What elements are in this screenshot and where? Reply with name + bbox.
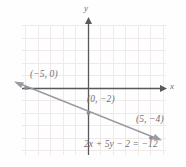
x-axis-label: x	[170, 81, 174, 91]
equation-label: 2x + 5y − 2 = −12	[84, 139, 158, 149]
point-marker	[24, 86, 28, 90]
point-label-x-intercept: (−5, 0)	[30, 69, 58, 79]
point-label-third: (5, −4)	[136, 114, 164, 124]
y-axis-label: y	[84, 3, 88, 13]
y-axis-arrow	[85, 17, 92, 24]
graph-figure: y x (−5, 0) (0, −2) (5, −4) 2x + 5y − 2 …	[0, 0, 186, 167]
grid-lines	[22, 25, 166, 155]
point-label-y-intercept: (0, −2)	[87, 94, 115, 104]
line-arrow-left	[14, 81, 24, 88]
point-marker	[87, 111, 91, 115]
